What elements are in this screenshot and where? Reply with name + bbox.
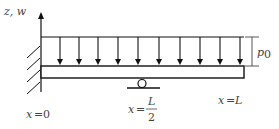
arrow-down-icon bbox=[177, 59, 183, 65]
svg-text:=: = bbox=[34, 108, 43, 121]
svg-text:L: L bbox=[147, 95, 155, 108]
arrow-down-icon bbox=[197, 59, 203, 65]
arrow-down-icon bbox=[57, 59, 63, 65]
arrow-down-icon bbox=[237, 59, 243, 65]
arrow-down-icon bbox=[217, 59, 223, 65]
svg-text:L: L bbox=[234, 94, 242, 107]
svg-text:0: 0 bbox=[43, 108, 50, 121]
svg-text:=: = bbox=[136, 103, 145, 116]
svg-text:x: x bbox=[128, 103, 135, 116]
svg-text:x: x bbox=[218, 94, 225, 107]
beam bbox=[41, 66, 244, 78]
axis-label: z, w bbox=[3, 5, 27, 18]
svg-text:=: = bbox=[226, 94, 235, 107]
load-magnitude-label: p0 bbox=[257, 46, 271, 61]
svg-text:2: 2 bbox=[148, 111, 155, 124]
roller-icon bbox=[138, 80, 146, 88]
beam-diagram: p0 z, w x = 0 x = L 2 x = L bbox=[0, 0, 279, 129]
arrow-down-icon bbox=[76, 59, 82, 65]
label-x-L: x = L bbox=[218, 94, 242, 107]
fixed-wall-hatching bbox=[27, 46, 40, 94]
arrow-down-icon bbox=[135, 59, 141, 65]
z-axis bbox=[38, 12, 44, 92]
z-axis-arrow-icon bbox=[38, 12, 44, 19]
label-x-0: x = 0 bbox=[26, 108, 50, 121]
distributed-load-arrows bbox=[57, 37, 243, 65]
svg-text:x: x bbox=[26, 108, 33, 121]
arrow-down-icon bbox=[156, 59, 162, 65]
roller-support bbox=[127, 80, 160, 89]
arrow-down-icon bbox=[95, 59, 101, 65]
label-x-half-L: x = L 2 bbox=[128, 95, 157, 124]
arrow-down-icon bbox=[115, 59, 121, 65]
